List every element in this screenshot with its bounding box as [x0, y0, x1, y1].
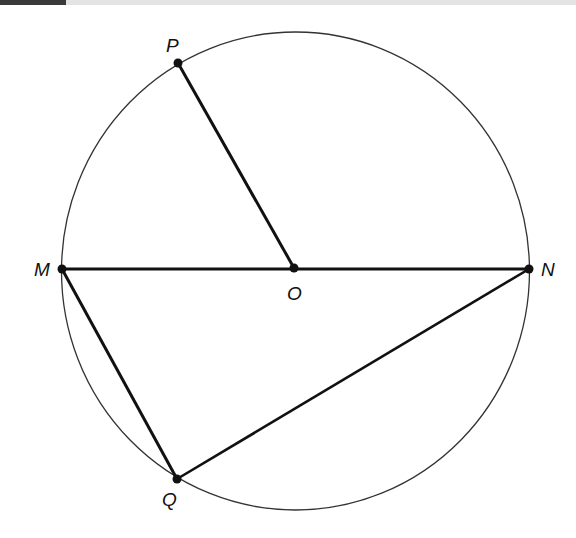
circle-diagram: P M O N Q	[0, 0, 576, 538]
segment-po	[178, 63, 294, 268]
label-n: N	[541, 259, 555, 280]
point-o	[290, 264, 299, 273]
point-p	[174, 59, 183, 68]
label-q: Q	[162, 489, 177, 510]
label-m: M	[34, 259, 50, 280]
point-q	[173, 475, 182, 484]
point-n	[525, 265, 534, 274]
segment-qn	[177, 269, 529, 479]
segment-mq	[62, 269, 177, 479]
point-m	[58, 265, 67, 274]
label-o: O	[287, 283, 302, 304]
label-p: P	[166, 35, 179, 56]
